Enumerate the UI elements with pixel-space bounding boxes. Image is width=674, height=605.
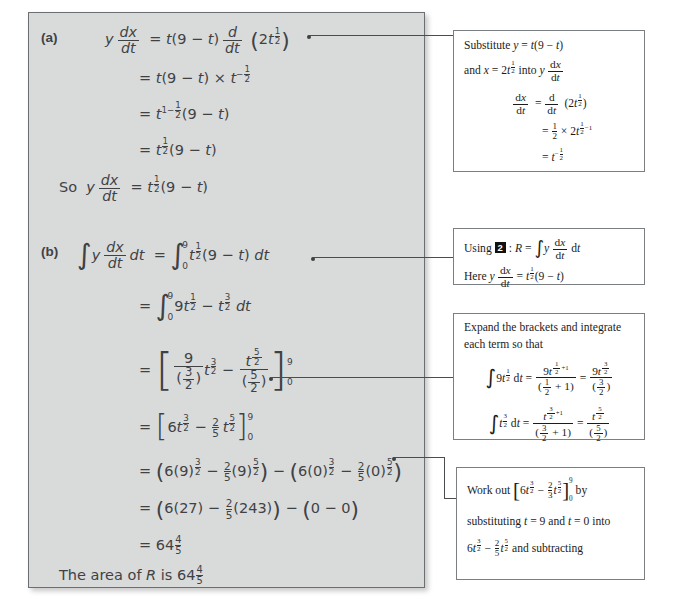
note-expand-line-4: ∫t32 dt = t32+1(32 + 1) = t52(52) (464, 406, 635, 443)
boxed-reference-number: 2 (495, 242, 506, 253)
note-using-2-line-2: Here y dxdt = t12(9 − t) (464, 265, 635, 290)
connector-line-note-workout-v (444, 457, 445, 499)
part-b-line-1: ∫y dxdt dt = ∫90t12(9 − t) dt (77, 240, 269, 272)
note-work-out-line-1: Work out [6t32 − 23t52]90 by (467, 478, 635, 504)
connector-line-note-workout-h2 (444, 498, 456, 499)
note-using-2: Using 2 : R = ∫y dxdt dt Here y dxdt = t… (453, 228, 645, 285)
note-expand-integrate: Expand the brackets and integrate each t… (453, 313, 645, 440)
part-a-line-4: = t12(9 − t) (139, 137, 217, 157)
solution-panel: (a) y dxdt = t(9 − t) ddt (2t12) = t(9 −… (28, 12, 425, 588)
connector-line-note-using2 (312, 257, 455, 258)
worked-solution-page: (a) y dxdt = t(9 − t) ddt (2t12) = t(9 −… (0, 0, 674, 605)
part-a-line-1: y dxdt = t(9 − t) ddt (2t12) (105, 25, 290, 56)
note-work-out-line-2: substituting t = 9 and t = 0 into (467, 514, 635, 531)
note-work-out-line-3: 6t32 − 25t52 and subtracting (467, 538, 635, 559)
note-substitute-line-2: and x = 2t12 into y dxdt (464, 59, 635, 84)
note-substitute-line-4: = 12 × 2t12−1 (464, 121, 635, 142)
part-a-label: (a) (41, 31, 58, 45)
connector-line-note-workout-h1 (393, 457, 445, 458)
note-substitute: Substitute y = t(9 − t) and x = 2t12 int… (453, 30, 645, 172)
note-using-2-line-1: Using 2 : R = ∫y dxdt dt (464, 237, 635, 262)
final-answer-statement: The area of R is 6445 (59, 565, 204, 586)
part-b-label: (b) (41, 245, 58, 259)
connector-line-note-expand (270, 377, 455, 378)
part-a-line-2: = t(9 − t) × t−12 (139, 65, 251, 85)
note-expand-line-1: Expand the brackets and integrate (464, 320, 635, 337)
part-b-line-6: = (6(27) − 25(243)) − (0 − 0) (139, 498, 359, 520)
note-expand-line-3: ∫9t12 dt = 9t12+1(12 + 1) = 9t32(32) (464, 361, 635, 398)
part-a-line-3: = t1−12(9 − t) (139, 101, 229, 121)
part-a-conclusion: So y dxdt = t12(9 − t) (59, 173, 208, 204)
part-b-line-7: = 6445 (139, 535, 182, 556)
note-work-out: Work out [6t32 − 23t52]90 by substitutin… (456, 467, 645, 580)
connector-line-note-substitute (308, 35, 455, 36)
note-substitute-line-1: Substitute y = t(9 − t) (464, 38, 635, 55)
part-b-line-2: = ∫909t12 − t32 dt (139, 291, 251, 323)
note-substitute-line-5: = t−12 (464, 147, 635, 167)
part-b-line-3: = [9(32)t32 − t52(52)]90 (139, 348, 293, 395)
note-substitute-line-3: dxdt = ddt (2t12) (464, 92, 635, 117)
note-expand-line-2: each term so that (464, 337, 635, 354)
part-b-line-5: = (6(9)32 − 25(9)52) − (6(0)32 − 25(0)52… (139, 458, 402, 483)
part-b-line-4: = [6t32 − 25 t52]90 (139, 413, 253, 443)
